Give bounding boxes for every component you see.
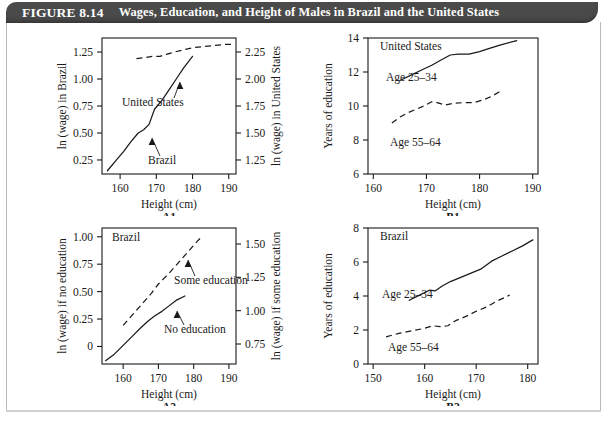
x-axis-title: Height (cm) (425, 388, 481, 401)
series-label-brazil: Brazil (148, 154, 176, 166)
x-tick-label: 180 (184, 182, 202, 194)
x-tick-label: 180 (185, 372, 203, 384)
series-line-age-55-64 (386, 295, 510, 337)
chart-a1: 1601701801900.250.500.751.001.251.251.50… (14, 26, 304, 216)
y-tick-label: 12 (348, 66, 360, 78)
series-line-united-states (136, 44, 234, 58)
page-right-rule (600, 22, 601, 410)
annotation-arrowhead (177, 82, 184, 89)
annotation-arrowhead (174, 311, 181, 318)
annotation-arrowhead (185, 260, 192, 267)
page-bottom-rule (6, 410, 601, 412)
x-tick-label: 180 (519, 372, 537, 384)
x-tick-label: 160 (416, 372, 434, 384)
y-tick-label: 4 (353, 290, 359, 302)
x-tick-label: 170 (148, 182, 166, 194)
x-tick-label: 160 (111, 182, 129, 194)
y-tick-label: 0.75 (73, 258, 93, 270)
annotation-arrowhead (149, 138, 156, 145)
panel-b1: 16017018019068101214United StatesAge 25–… (310, 26, 600, 216)
y-tick-label: 0.25 (73, 313, 93, 325)
y-tick-label-right: 1.50 (245, 127, 265, 139)
panel-corner-label-brazil: Brazil (380, 230, 408, 242)
x-axis-title: Height (cm) (141, 388, 197, 401)
x-tick-label: 170 (468, 372, 486, 384)
series-line-age-55-64 (392, 91, 501, 123)
chart-b2: 15016017018002468BrazilAge 25–34Age 55–6… (310, 216, 600, 406)
x-tick-label: 190 (220, 182, 238, 194)
x-tick-label: 170 (150, 372, 168, 384)
figure-title: Wages, Education, and Height of Males in… (119, 5, 499, 20)
y-tick-label: 0 (87, 340, 93, 352)
panel-a1: 1601701801900.250.500.751.001.251.251.50… (14, 26, 304, 216)
panel-b2: 15016017018002468BrazilAge 25–34Age 55–6… (310, 216, 600, 406)
y-tick-label-right: 1.00 (245, 305, 265, 317)
series-label-age-25-34: Age 25–34 (382, 288, 433, 301)
y-tick-label: 8 (353, 134, 359, 146)
x-tick-label: 190 (220, 372, 238, 384)
x-tick-label: 170 (418, 182, 436, 194)
panel-corner-label-united-states: United States (380, 40, 442, 52)
x-tick-label: 190 (524, 182, 542, 194)
y-tick-label-right: 1.25 (245, 271, 265, 283)
plot-frame (368, 38, 538, 174)
y-tick-label: 2 (353, 324, 359, 336)
panel-a2: 16017018019000.250.500.751.000.751.001.2… (14, 216, 304, 406)
x-axis-title: Height (cm) (141, 198, 197, 211)
y-tick-label: 0.75 (73, 100, 93, 112)
x-tick-label: 160 (365, 182, 383, 194)
y-axis-title: Years of education (322, 63, 334, 149)
y-tick-label: 6 (353, 168, 359, 180)
figure-number: FIGURE 8.14 (22, 5, 104, 21)
panel-id-label: B2 (446, 401, 460, 406)
figure-title-banner: FIGURE 8.14 Wages, Education, and Height… (6, 2, 598, 23)
chart-a2: 16017018019000.250.500.751.000.751.001.2… (14, 216, 304, 406)
series-label-age-55-64: Age 55–64 (388, 341, 439, 354)
y-tick-label-right: 1.50 (245, 238, 265, 250)
series-label-no-education: No education (164, 323, 226, 335)
y-tick-label: 1.00 (73, 231, 93, 243)
y-axis-title-right: ln (wage) if some education (270, 232, 283, 361)
y-axis-title: ln (wage) in Brazil (56, 63, 69, 150)
y-tick-label-right: 1.75 (245, 100, 265, 112)
y-tick-label: 0.25 (73, 154, 93, 166)
panel-corner-label-brazil: Brazil (112, 231, 140, 243)
y-tick-label: 8 (353, 222, 359, 234)
y-tick-label-right: 0.75 (245, 338, 265, 350)
x-tick-label: 160 (115, 372, 133, 384)
series-label-united-states: United States (122, 96, 184, 108)
y-tick-label-right: 2.25 (245, 46, 265, 58)
y-tick-label: 1.00 (73, 73, 93, 85)
y-tick-label: 0 (353, 358, 359, 370)
y-tick-label-right: 2.00 (245, 73, 265, 85)
y-tick-label: 6 (353, 256, 359, 268)
x-tick-label: 150 (365, 372, 383, 384)
y-tick-label: 0.50 (73, 127, 93, 139)
chart-b1: 16017018019068101214United StatesAge 25–… (310, 26, 600, 216)
y-axis-title: ln (wage) if no education (56, 238, 69, 354)
y-axis-title: Years of education (322, 253, 334, 339)
x-axis-title: Height (cm) (425, 198, 481, 211)
x-tick-label: 180 (471, 182, 489, 194)
y-tick-label: 0.50 (73, 286, 93, 298)
panel-id-label: A2 (162, 401, 176, 406)
page-left-rule (6, 22, 7, 410)
y-tick-label: 14 (348, 32, 360, 44)
y-tick-label-right: 1.25 (245, 154, 265, 166)
y-tick-label: 10 (348, 100, 360, 112)
y-axis-title-right: ln (wage) in United States (270, 45, 283, 166)
y-tick-label: 1.25 (73, 46, 93, 58)
figure-root: FIGURE 8.14 Wages, Education, and Height… (0, 0, 610, 424)
plot-frame (102, 228, 236, 364)
series-label-some-education: Some education (174, 274, 248, 286)
series-label-age-55-64: Age 55–64 (390, 136, 441, 149)
series-label-age-25-34: Age 25–34 (386, 71, 437, 84)
